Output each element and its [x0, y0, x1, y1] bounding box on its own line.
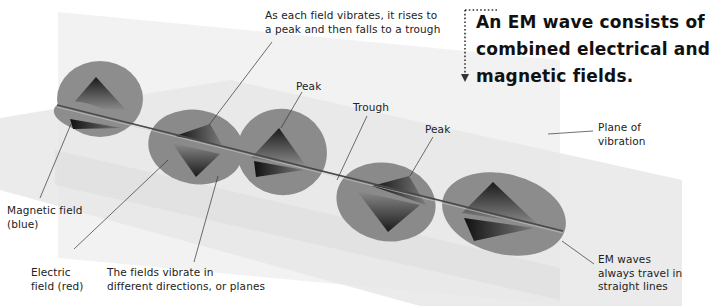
label-trough: Trough — [353, 101, 389, 115]
label-peak-2: Peak — [425, 123, 450, 137]
label-straight-lines: EM waves always travel in straight lines — [598, 253, 682, 294]
label-fields-vibrate: The fields vibrate in different directio… — [107, 266, 265, 293]
label-peak-1: Peak — [296, 80, 321, 94]
headline: An EM wave consists of combined electric… — [476, 9, 710, 90]
headline-line-3: magnetic fields. — [476, 63, 710, 90]
label-electric-field: Electric field (red) — [31, 266, 84, 293]
headline-line-1: An EM wave consists of — [476, 9, 710, 36]
label-plane-of-vibration: Plane of vibration — [598, 121, 646, 148]
label-magnetic-field: Magnetic field (blue) — [7, 204, 82, 231]
headline-line-2: combined electrical and — [476, 36, 710, 63]
label-vibrates: As each field vibrates, it rises to a pe… — [265, 9, 440, 36]
